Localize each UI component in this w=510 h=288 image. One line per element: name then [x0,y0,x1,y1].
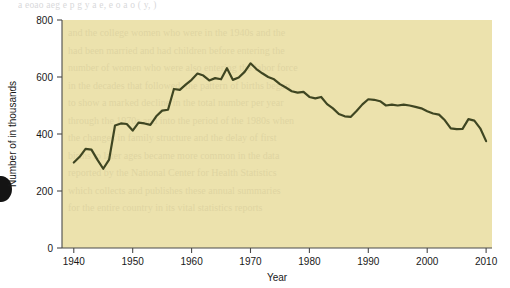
series-line-path [74,63,486,168]
x-tick-label: 1960 [180,256,203,267]
x-tick-label: 1990 [357,256,380,267]
x-axis-title: Year [267,272,288,283]
axes-group [62,20,492,248]
x-tick-label: 2010 [475,256,498,267]
x-tick-label: 2000 [416,256,439,267]
y-axis-title: Number of in thousands [7,81,18,187]
y-axis-ticks: 0200400600800 [36,15,62,254]
x-tick-label: 1950 [122,256,145,267]
y-tick-label: 0 [47,243,53,254]
chart-svg: 0200400600800 19401950196019701980199020… [0,0,510,288]
x-axis-ticks: 19401950196019701980199020002010 [63,248,498,267]
line-chart-figure: and the college women who were in the 19… [0,0,510,288]
y-tick-label: 800 [36,15,53,26]
y-tick-label: 200 [36,186,53,197]
x-tick-label: 1970 [239,256,262,267]
x-tick-label: 1980 [298,256,321,267]
y-tick-label: 400 [36,129,53,140]
x-tick-label: 1940 [63,256,86,267]
y-tick-label: 600 [36,72,53,83]
data-series-group [74,63,486,168]
